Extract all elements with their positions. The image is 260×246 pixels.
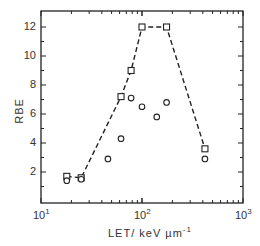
y-tick-label: 10 <box>24 49 36 61</box>
dashed-envelope-line <box>67 27 205 178</box>
square-marker <box>139 24 145 30</box>
circle-marker <box>128 95 134 101</box>
circle-marker <box>64 178 70 184</box>
circle-marker <box>164 100 170 106</box>
circle-marker <box>139 104 145 110</box>
circle-marker <box>118 136 124 142</box>
square-marker <box>164 24 170 30</box>
x-tick-label: 103 <box>235 207 252 221</box>
y-tick-label: 4 <box>30 136 36 148</box>
y-tick-label: 2 <box>30 165 36 177</box>
square-marker <box>128 68 134 74</box>
x-tick-label: 102 <box>134 207 151 221</box>
y-tick-label: 12 <box>24 20 36 32</box>
x-axis-label: LET/ keV µm-1 <box>108 225 192 239</box>
circle-marker <box>105 156 111 162</box>
y-axis-label: RBE <box>13 98 25 124</box>
x-tick-label: 101 <box>33 207 50 221</box>
y-tick-label: 8 <box>30 78 36 90</box>
circle-marker <box>202 156 208 162</box>
circle-marker <box>78 176 84 182</box>
circle-marker <box>154 114 160 120</box>
square-marker <box>202 146 208 152</box>
y-tick-label: 6 <box>30 107 36 119</box>
x-axis-label-exponent: -1 <box>183 225 192 234</box>
x-axis-label-main: LET/ keV µm <box>108 227 183 239</box>
square-marker <box>118 94 124 100</box>
